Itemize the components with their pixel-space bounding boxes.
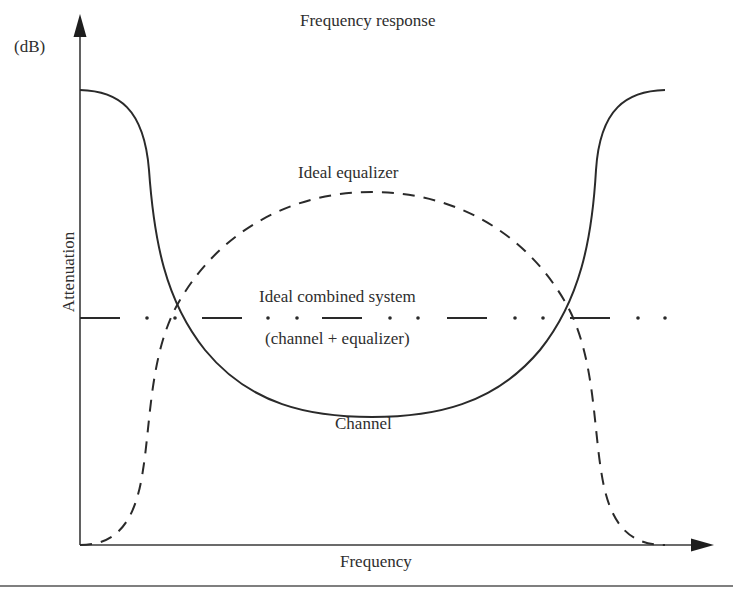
y-axis-unit-label: (dB)	[14, 38, 45, 55]
channel-curve	[80, 90, 665, 417]
ideal-combined-system-label: Ideal combined system	[259, 288, 416, 305]
frequency-response-diagram: Frequency response (dB) Attenuation Freq…	[0, 0, 733, 594]
ideal-combined-system-sublabel: (channel + equalizer)	[265, 330, 410, 347]
x-axis-label: Frequency	[340, 553, 412, 570]
ideal-equalizer-label: Ideal equalizer	[298, 164, 399, 181]
channel-label: Channel	[335, 415, 392, 432]
x-axis-arrowhead-icon	[691, 539, 714, 552]
ideal-equalizer-curve	[80, 192, 665, 545]
ideal-combined-system-line	[80, 316, 667, 320]
chart-title: Frequency response	[300, 12, 436, 29]
y-axis-label: Attenuation	[60, 232, 77, 312]
y-axis-arrowhead-icon	[74, 14, 87, 37]
